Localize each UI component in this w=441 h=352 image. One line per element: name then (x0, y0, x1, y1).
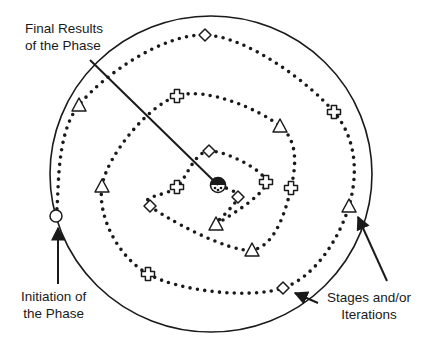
triangle-marker-icon (95, 179, 109, 192)
label-initiation-line1: Initiation of (21, 288, 86, 305)
cross-marker-icon (260, 176, 273, 189)
triangle-marker-icon (342, 199, 356, 212)
phase-boundary-circle (50, 16, 372, 332)
arrow-stages (358, 217, 387, 281)
label-final-results-line1: Final Results (25, 20, 103, 37)
label-initiation-line2: the Phase (21, 305, 86, 322)
cross-marker-icon (285, 182, 298, 195)
stage-markers (50, 29, 356, 294)
diamond-marker-icon (277, 282, 289, 294)
label-final-results: Final Results of the Phase (25, 20, 103, 54)
start-circle-icon (50, 210, 62, 222)
triangle-marker-icon (273, 119, 287, 132)
label-stages-line2: Iterations (327, 306, 411, 323)
label-final-results-line2: of the Phase (25, 37, 103, 54)
triangle-marker-icon (72, 98, 86, 111)
diamond-marker-icon (203, 145, 215, 157)
diamond-marker-icon (199, 29, 211, 41)
label-stages: Stages and/or Iterations (327, 289, 411, 323)
spiral-path-dotted (56, 35, 354, 293)
label-stages-line1: Stages and/or (327, 289, 411, 306)
cross-marker-icon (171, 90, 184, 103)
label-initiation: Initiation of the Phase (21, 288, 86, 322)
